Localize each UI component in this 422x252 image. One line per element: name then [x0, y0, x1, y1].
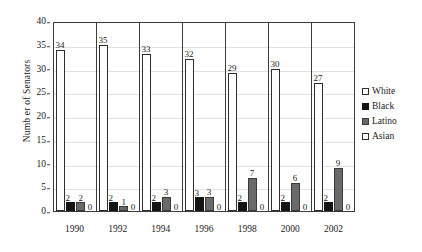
data-label-white-1990: 34 — [56, 41, 65, 50]
bars: 32330 — [185, 23, 224, 211]
y-axis-tick-mark — [47, 93, 50, 94]
bar-group-1990: 34220 — [54, 23, 97, 211]
y-axis-tick-5: 5 — [41, 184, 46, 194]
data-label-asian-1998: 0 — [260, 203, 265, 212]
legend-item-label: Black — [372, 102, 394, 112]
bar-white-1994[interactable]: 33 — [142, 54, 151, 211]
bars: 30260 — [271, 23, 310, 211]
data-label-asian-1994: 0 — [174, 203, 179, 212]
data-label-latino-2000: 6 — [293, 174, 298, 183]
data-label-black-1994: 2 — [152, 194, 157, 203]
bar-black-1992[interactable]: 2 — [109, 202, 118, 212]
bar-black-1990[interactable]: 2 — [66, 202, 75, 212]
y-axis-tick-mark — [47, 165, 50, 166]
data-label-black-1996: 3 — [195, 189, 200, 198]
data-label-asian-2002: 0 — [346, 203, 351, 212]
bars: 29270 — [228, 23, 267, 211]
bar-black-2000[interactable]: 2 — [281, 202, 290, 212]
y-axis-tick-35: 35 — [37, 41, 47, 51]
data-label-latino-1990: 2 — [79, 194, 84, 203]
square-outline-icon — [362, 133, 369, 140]
data-label-white-1998: 29 — [228, 64, 237, 73]
chart-legend: WhiteBlackLatinoAsian — [362, 84, 422, 144]
bar-white-1998[interactable]: 29 — [228, 73, 237, 211]
data-label-white-2000: 30 — [271, 60, 280, 69]
x-axis-tick-1994: 1994 — [139, 214, 182, 234]
data-label-white-1994: 33 — [142, 45, 151, 54]
data-label-white-2002: 27 — [314, 74, 323, 83]
bar-white-2002[interactable]: 27 — [314, 83, 323, 211]
y-axis-tick-mark — [47, 22, 50, 23]
data-label-latino-1994: 3 — [164, 188, 169, 197]
bar-latino-2000[interactable]: 6 — [291, 183, 300, 212]
legend-item-asian[interactable]: Asian — [362, 129, 422, 144]
bars: 27290 — [314, 23, 353, 211]
bars: 34220 — [56, 23, 95, 211]
y-axis-tick-mark — [47, 212, 50, 213]
legend-item-label: Asian — [372, 132, 394, 142]
y-axis-tick-0: 0 — [41, 207, 46, 217]
bar-latino-1994[interactable]: 3 — [162, 197, 171, 211]
bar-latino-2002[interactable]: 9 — [334, 168, 343, 211]
square-filled-gray-icon — [362, 118, 369, 125]
y-axis-tick-25: 25 — [37, 89, 47, 99]
bar-group-2002: 27290 — [312, 23, 354, 211]
x-axis-tick-1992: 1992 — [96, 214, 139, 234]
data-label-black-1990: 2 — [66, 194, 71, 203]
y-axis-tick-mark — [47, 117, 50, 118]
data-label-black-2000: 2 — [281, 194, 286, 203]
x-axis-tick-1996: 1996 — [182, 214, 225, 234]
bar-latino-1990[interactable]: 2 — [76, 202, 85, 212]
bar-black-1998[interactable]: 2 — [238, 202, 247, 212]
data-label-asian-1996: 0 — [217, 203, 222, 212]
legend-item-label: White — [372, 87, 395, 97]
x-axis-tick-labels: 1990199219941996199820002002 — [53, 214, 355, 234]
data-label-latino-2002: 9 — [336, 159, 341, 168]
bar-latino-1998[interactable]: 7 — [248, 178, 257, 211]
x-axis-tick-2000: 2000 — [269, 214, 312, 234]
data-label-black-1992: 2 — [109, 194, 114, 203]
bar-white-1996[interactable]: 32 — [185, 59, 194, 211]
y-axis-tick-20: 20 — [37, 112, 47, 122]
y-axis-tick-mark — [47, 46, 50, 47]
legend-item-latino[interactable]: Latino — [362, 114, 422, 129]
y-axis-tick-15: 15 — [37, 136, 47, 146]
bar-latino-1992[interactable]: 1 — [119, 206, 128, 211]
bar-group-1992: 35210 — [97, 23, 140, 211]
legend-item-black[interactable]: Black — [362, 99, 422, 114]
y-axis-tick-mark — [47, 70, 50, 71]
plot-area: 34220352103323032330292703026027290 — [53, 22, 355, 212]
bar-group-1998: 29270 — [226, 23, 269, 211]
x-axis-tick-2002: 2002 — [312, 214, 355, 234]
bar-latino-1996[interactable]: 3 — [205, 197, 214, 211]
y-axis-tick-10: 10 — [37, 160, 47, 170]
bar-group-2000: 30260 — [269, 23, 312, 211]
bar-white-2000[interactable]: 30 — [271, 69, 280, 212]
bars: 35210 — [99, 23, 138, 211]
x-axis-tick-1990: 1990 — [53, 214, 96, 234]
data-label-asian-1992: 0 — [131, 203, 136, 212]
y-axis-tick-labels: 0510152025303540 — [20, 22, 49, 212]
data-label-black-1998: 2 — [238, 194, 243, 203]
bar-white-1990[interactable]: 34 — [56, 50, 65, 212]
data-label-asian-1990: 0 — [88, 203, 93, 212]
bar-white-1992[interactable]: 35 — [99, 45, 108, 211]
bar-black-1994[interactable]: 2 — [152, 202, 161, 212]
bar-groups: 34220352103323032330292703026027290 — [54, 23, 354, 211]
bar-group-1994: 33230 — [140, 23, 183, 211]
square-filled-black-icon — [362, 103, 369, 110]
bars: 33230 — [142, 23, 181, 211]
legend-item-white[interactable]: White — [362, 84, 422, 99]
y-axis-tick-30: 30 — [37, 65, 47, 75]
data-label-latino-1992: 1 — [122, 198, 127, 207]
bar-black-2002[interactable]: 2 — [324, 202, 333, 212]
x-axis-tick-1998: 1998 — [226, 214, 269, 234]
senators-by-race-bar-chart: Numb er of Senators 0510152025303540 342… — [0, 0, 422, 252]
bar-black-1996[interactable]: 3 — [195, 197, 204, 211]
data-label-asian-2000: 0 — [303, 203, 308, 212]
data-label-black-2002: 2 — [324, 194, 329, 203]
square-outline-icon — [362, 88, 369, 95]
data-label-latino-1996: 3 — [207, 188, 212, 197]
data-label-white-1992: 35 — [99, 36, 108, 45]
bar-group-1996: 32330 — [183, 23, 226, 211]
